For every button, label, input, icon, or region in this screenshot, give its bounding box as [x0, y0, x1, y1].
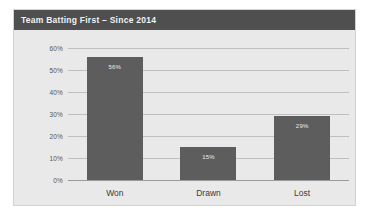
y-axis-tick-label: 30% [49, 111, 63, 118]
y-axis-tick-label: 40% [49, 89, 63, 96]
bar-drawn[interactable]: 15% [180, 147, 236, 180]
bar-group: 56%Won [68, 48, 162, 180]
y-axis-tick-label: 60% [49, 45, 63, 52]
chart-title-bar: Team Batting First – Since 2014 [14, 10, 355, 30]
bar-value-label: 15% [180, 154, 236, 160]
bar-lost[interactable]: 29% [274, 116, 330, 180]
chart-figure: Team Batting First – Since 2014 60%50%40… [13, 9, 356, 206]
y-axis-tick-label: 20% [49, 133, 63, 140]
bar-value-label: 29% [274, 123, 330, 129]
bar-won[interactable]: 56% [87, 57, 143, 180]
bar-value-label: 56% [87, 64, 143, 70]
x-axis-line [68, 180, 349, 181]
chart-title: Team Batting First – Since 2014 [14, 15, 156, 25]
y-axis-tick-label: 0% [53, 177, 63, 184]
bar-group: 29%Lost [255, 48, 349, 180]
bar-group: 15%Drawn [162, 48, 256, 180]
y-axis-tick-label: 50% [49, 67, 63, 74]
x-axis-category-label: Lost [255, 188, 349, 198]
x-axis-category-label: Won [68, 188, 162, 198]
plot-area: 60%50%40%30%20%10%0% 56%Won15%Drawn29%Lo… [68, 48, 349, 180]
y-axis-tick-label: 10% [49, 155, 63, 162]
x-axis-category-label: Drawn [162, 188, 256, 198]
